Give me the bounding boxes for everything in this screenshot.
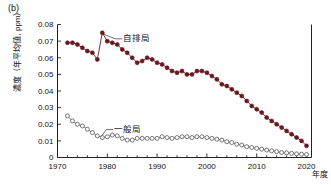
data-point <box>275 150 279 154</box>
data-point <box>285 129 289 133</box>
data-point <box>235 91 239 95</box>
data-point <box>195 69 199 73</box>
data-point <box>90 51 94 55</box>
data-point <box>155 61 159 65</box>
data-point <box>240 94 244 98</box>
svg-text:0.03: 0.03 <box>38 103 54 112</box>
data-point <box>115 42 119 46</box>
data-point <box>130 56 134 60</box>
data-point <box>85 127 89 131</box>
data-point <box>140 59 144 63</box>
data-point <box>150 136 154 140</box>
data-point <box>205 71 209 75</box>
data-point <box>180 69 184 73</box>
data-point <box>265 116 269 120</box>
data-point <box>260 111 264 115</box>
data-point <box>280 151 284 155</box>
data-point <box>255 107 259 111</box>
data-point <box>275 122 279 126</box>
data-point <box>95 57 99 61</box>
data-point <box>160 135 164 139</box>
data-point <box>130 138 134 142</box>
data-point <box>295 136 299 140</box>
data-point <box>185 72 189 76</box>
data-point <box>175 71 179 75</box>
data-point <box>165 66 169 70</box>
svg-text:0.02: 0.02 <box>38 120 54 129</box>
data-point <box>250 146 254 150</box>
data-point <box>70 41 74 45</box>
data-point <box>280 126 284 130</box>
data-point <box>290 132 294 136</box>
data-point <box>165 136 169 140</box>
data-point <box>230 87 234 91</box>
svg-text:2000: 2000 <box>198 162 216 171</box>
data-point <box>215 77 219 81</box>
data-point <box>200 135 204 139</box>
data-point <box>150 57 154 61</box>
data-point <box>85 49 89 53</box>
data-point <box>120 47 124 51</box>
data-point <box>255 146 259 150</box>
data-point <box>300 152 304 156</box>
annotation-group: 自排局 一般局 <box>101 33 150 136</box>
data-point <box>100 136 104 140</box>
data-point <box>110 41 114 45</box>
data-point <box>65 114 69 118</box>
data-point <box>115 134 119 138</box>
data-point <box>205 136 209 140</box>
data-point <box>210 136 214 140</box>
series-label-roadside: 自排局 <box>123 33 150 43</box>
data-point <box>185 135 189 139</box>
data-point <box>160 62 164 66</box>
data-point <box>225 140 229 144</box>
svg-text:0.01: 0.01 <box>38 137 54 146</box>
data-point <box>170 69 174 73</box>
series-label-general: 一般局 <box>114 124 141 134</box>
data-point <box>285 151 289 155</box>
data-point <box>80 46 84 50</box>
data-point <box>270 149 274 153</box>
data-point <box>290 151 294 155</box>
data-point <box>250 104 254 108</box>
data-point <box>145 56 149 60</box>
data-point <box>245 99 249 103</box>
data-point <box>100 31 104 35</box>
data-point <box>105 135 109 139</box>
data-point <box>225 84 229 88</box>
data-point <box>200 69 204 73</box>
data-point <box>305 153 309 157</box>
svg-text:1980: 1980 <box>98 162 116 171</box>
data-point <box>120 136 124 140</box>
data-point <box>95 134 99 138</box>
data-point <box>270 119 274 123</box>
data-point <box>190 72 194 76</box>
data-point <box>75 122 79 126</box>
data-point <box>65 41 69 45</box>
data-point <box>75 42 79 46</box>
data-point <box>190 136 194 140</box>
data-point <box>125 138 129 142</box>
data-point <box>105 39 109 43</box>
data-point <box>260 147 264 151</box>
series-roadside-stations <box>65 31 308 148</box>
chart-canvas: 00.010.020.030.040.050.060.070.081970198… <box>0 0 331 185</box>
svg-text:1990: 1990 <box>148 162 166 171</box>
data-point <box>220 138 224 142</box>
tick-group: 00.010.020.030.040.050.060.070.081970198… <box>38 20 316 170</box>
data-point <box>135 61 139 65</box>
data-point <box>215 137 219 141</box>
figure-panel-b: (b) 濃度（年平均値, ppm） 年度 00.010.020.030.040.… <box>0 0 331 185</box>
data-point <box>295 152 299 156</box>
svg-text:0.05: 0.05 <box>38 70 54 79</box>
data-point <box>195 135 199 139</box>
data-point <box>80 124 84 128</box>
data-point <box>210 74 214 78</box>
data-point <box>170 136 174 140</box>
svg-text:0.06: 0.06 <box>38 54 54 63</box>
svg-text:0.04: 0.04 <box>38 87 54 96</box>
data-point <box>155 136 159 140</box>
data-point <box>125 51 129 55</box>
data-point <box>140 136 144 140</box>
svg-text:0.08: 0.08 <box>38 20 54 29</box>
